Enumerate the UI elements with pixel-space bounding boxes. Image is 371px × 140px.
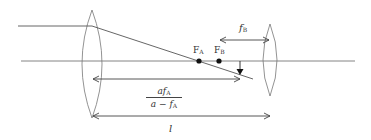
focal-point-a bbox=[196, 58, 201, 63]
focal-point-b bbox=[216, 58, 221, 63]
den-sub: A bbox=[173, 102, 177, 109]
label-lens-separation: l bbox=[169, 124, 172, 134]
label-focal-a: FA bbox=[193, 46, 204, 55]
label-fb-sub: B bbox=[243, 26, 247, 33]
label-fb-point-sub: B bbox=[220, 48, 224, 55]
label-focal-b: FB bbox=[214, 46, 225, 55]
fraction-numerator: afA bbox=[144, 86, 184, 97]
label-fb: fB bbox=[239, 23, 247, 33]
label-fa-sub: A bbox=[199, 48, 203, 55]
lens-b bbox=[263, 24, 277, 96]
two-lens-ray-diagram bbox=[0, 0, 371, 140]
fraction-denominator: a − fA bbox=[144, 98, 184, 109]
den-minus: − bbox=[156, 99, 169, 109]
num-sub: A bbox=[166, 89, 170, 96]
label-image-distance-fraction: afA a − fA bbox=[144, 86, 184, 109]
